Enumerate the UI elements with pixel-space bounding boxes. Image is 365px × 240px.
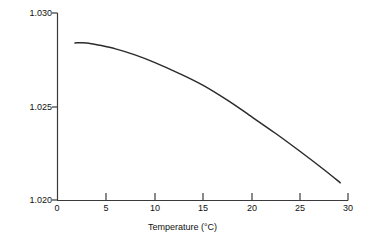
- x-axis-ticks: [106, 193, 348, 201]
- x-tick-label-15: 15: [193, 204, 213, 213]
- y-tick-label-1025: 1.025: [16, 103, 52, 112]
- x-tick-label-5: 5: [96, 204, 116, 213]
- x-tick-label-30: 30: [338, 204, 358, 213]
- density-temperature-chart: 1.030 1.025 1.020 0 5 10 15 20 25 30 Tem…: [0, 0, 365, 240]
- x-tick-label-20: 20: [242, 204, 262, 213]
- x-tick-label-25: 25: [290, 204, 310, 213]
- density-curve: [75, 43, 340, 183]
- x-tick-label-0: 0: [47, 204, 67, 213]
- y-tick-label-1030: 1.030: [16, 9, 52, 18]
- x-tick-label-10: 10: [145, 204, 165, 213]
- x-axis-title: Temperature (°C): [0, 222, 365, 232]
- y-axis-ticks: [52, 13, 58, 200]
